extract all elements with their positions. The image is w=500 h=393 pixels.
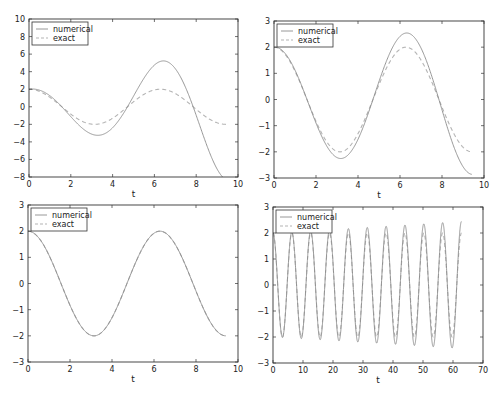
y-tick-label: 1 xyxy=(264,255,269,264)
plot-svg: 010203040506070−3−2−10123tnumericalexact xyxy=(0,0,500,393)
y-tick-label: 3 xyxy=(264,203,269,212)
x-tick-label: 50 xyxy=(418,366,428,375)
legend: numericalexact xyxy=(276,210,337,233)
y-tick-label: −1 xyxy=(257,307,269,316)
y-tick-label: 2 xyxy=(264,229,269,238)
x-tick-label: 70 xyxy=(478,366,488,375)
legend-label-numerical: numerical xyxy=(297,213,337,222)
legend-label-exact: exact xyxy=(297,222,319,231)
x-tick-label: 20 xyxy=(328,366,338,375)
x-tick-label: 60 xyxy=(448,366,458,375)
numerical-series-line xyxy=(273,221,461,348)
exact-series-line xyxy=(273,233,461,337)
y-tick-label: −3 xyxy=(257,359,269,368)
x-tick-label: 0 xyxy=(270,366,275,375)
x-tick-label: 10 xyxy=(298,366,308,375)
x-axis-label: t xyxy=(376,375,380,385)
x-tick-label: 30 xyxy=(358,366,368,375)
y-tick-label: −2 xyxy=(257,333,269,342)
y-tick-label: 0 xyxy=(264,281,269,290)
x-tick-label: 40 xyxy=(388,366,398,375)
